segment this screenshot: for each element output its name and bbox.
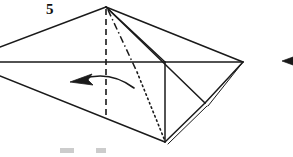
edge-right-vertex-to-fold-corner-inner <box>208 62 243 106</box>
edge-partial-arrowhead <box>282 57 293 65</box>
origami-diagram-svg <box>0 0 293 157</box>
edge-apex-to-fold-corner <box>106 7 205 103</box>
edge-bottom-vertex-to-lower-left <box>0 76 165 142</box>
fold-arrow-head <box>70 74 93 85</box>
edge-fold-corner-to-bottom-vertex <box>165 103 205 142</box>
edge-right-vertex-to-fold-corner <box>205 62 243 103</box>
caption-remnant <box>60 148 122 153</box>
edge-apex-to-right-vertex <box>106 7 243 62</box>
hidden-line-group <box>108 10 165 141</box>
step-number-label: 5 <box>46 2 54 17</box>
origami-figure: 5 <box>0 0 293 157</box>
fold-direction-arrow <box>70 74 134 88</box>
edge-fold-corner-to-bottom-vertex-inner <box>168 106 207 144</box>
right-edge-arrowhead-glyph <box>282 57 293 65</box>
dotted-lower-hidden-line <box>137 72 165 141</box>
paper-edges-group <box>0 7 243 144</box>
